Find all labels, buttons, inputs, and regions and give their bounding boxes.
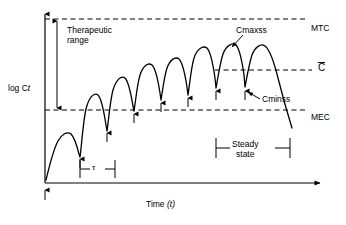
steady-state-label: Steadystate [232, 140, 258, 160]
tau-bracket [80, 160, 115, 178]
cmax-ss-label: Cmaxss [236, 26, 267, 36]
y-axis-label-text: log C [8, 83, 28, 93]
therapeutic-range-line2: range [67, 35, 89, 45]
cmax-subscript: ss [258, 25, 267, 35]
cmax-leader [232, 35, 243, 47]
mec-label: MEC [311, 113, 330, 123]
therapeutic-range-label: Therapeuticrange [67, 26, 112, 46]
dose-arrow-group [45, 91, 245, 200]
x-axis-label-variable: (t) [167, 199, 175, 209]
cmax-text: Cmax [236, 25, 258, 35]
concentration-curve [46, 44, 292, 180]
chart-canvas [0, 0, 346, 225]
steady-state-line1: Steady [232, 139, 258, 149]
x-axis-label: Time (t) [146, 200, 175, 210]
cmin-subscript: ss [282, 94, 291, 104]
y-axis-label-subscript: t [28, 83, 30, 93]
tau-label: τ [92, 163, 95, 172]
c-average-label: C [318, 62, 325, 74]
steady-state-line2: state [236, 149, 254, 159]
therapeutic-range-line1: Therapeutic [67, 25, 112, 35]
mtc-label: MTC [311, 24, 329, 34]
cmin-text: Cmin [262, 94, 282, 104]
c-average-text: C [318, 62, 325, 73]
cmin-leader [248, 92, 260, 99]
cmin-ss-label: Cminss [262, 95, 290, 105]
pharmacokinetic-chart: MTC MEC C Therapeuticrange log Ct Cmaxss… [0, 0, 346, 225]
y-axis-label: log Ct [8, 84, 30, 94]
x-axis-label-text: Time [146, 199, 165, 209]
